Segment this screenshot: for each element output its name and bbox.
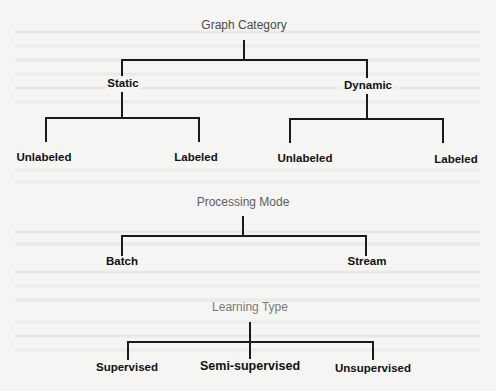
dynamic-labeled-leaf: Labeled (434, 154, 477, 166)
connector (45, 117, 200, 119)
supervised-leaf: Supervised (96, 362, 158, 374)
stream-leaf: Stream (348, 256, 387, 268)
processing-mode-root: Processing Mode (197, 196, 290, 208)
dynamic-unlabeled-leaf: Unlabeled (278, 153, 333, 165)
dynamic-node: Dynamic (342, 78, 394, 94)
connector (365, 235, 367, 256)
unsupervised-leaf: Unsupervised (335, 363, 411, 375)
static-node: Static (105, 76, 140, 92)
connector (243, 40, 245, 61)
semi-supervised-leaf: Semi-supervised (200, 360, 300, 373)
graph-category-root: Graph Category (201, 19, 286, 31)
connector (198, 117, 200, 142)
static-unlabeled-leaf: Unlabeled (17, 152, 72, 164)
connector (289, 118, 291, 143)
connector (127, 341, 129, 360)
connector (289, 118, 444, 120)
connector (121, 235, 123, 256)
connector (128, 341, 374, 343)
connector (121, 235, 367, 237)
static-labeled-leaf: Labeled (174, 152, 217, 164)
connector (372, 341, 374, 360)
learning-type-root: Learning Type (212, 301, 288, 313)
taxonomy-diagram: Graph Category Static Dynamic Unlabeled … (0, 0, 496, 391)
connector (122, 59, 368, 61)
connector (45, 117, 47, 142)
batch-leaf: Batch (106, 256, 138, 268)
connector (242, 216, 244, 237)
connector (442, 118, 444, 143)
